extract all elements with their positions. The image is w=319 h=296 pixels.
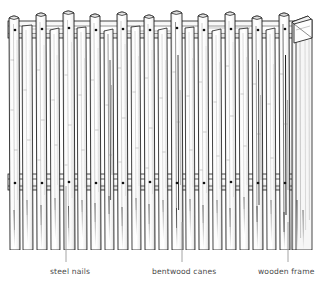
- cane: [198, 14, 209, 250]
- cane: [158, 28, 168, 250]
- label-steel-nails: steel nails: [50, 268, 90, 276]
- cane: [279, 13, 290, 250]
- cane: [36, 13, 47, 250]
- cane: [9, 16, 20, 250]
- cane: [131, 26, 141, 250]
- cane: [90, 14, 101, 250]
- label-bentwood-canes: bentwood canes: [152, 268, 216, 276]
- fence-line-drawing: [0, 0, 319, 296]
- cane: [117, 12, 128, 250]
- bentwood-canes-group: [9, 11, 290, 250]
- cane: [144, 15, 155, 250]
- label-wooden-frame: wooden frame: [258, 268, 315, 276]
- cane: [50, 28, 60, 250]
- cane: [171, 11, 183, 250]
- cane: [77, 27, 87, 250]
- wooden-frame-post: [292, 16, 312, 250]
- cane: [252, 16, 263, 250]
- cane: [185, 27, 195, 250]
- cane: [266, 28, 276, 250]
- cane: [212, 29, 222, 250]
- cane: [22, 25, 33, 250]
- cane: [225, 12, 236, 250]
- cane: [63, 11, 75, 250]
- fence-construction-diagram: steel nails bentwood canes wooden frame: [0, 0, 319, 296]
- cane: [239, 28, 249, 250]
- cane: [104, 29, 114, 250]
